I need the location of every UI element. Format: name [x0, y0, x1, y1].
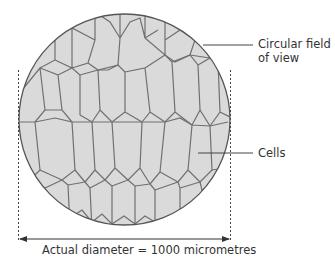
- field-of-view-label-line1: Circular field: [258, 37, 331, 51]
- field-of-view-label: Circular field of view: [258, 37, 331, 65]
- field-of-view-circle: [19, 8, 232, 232]
- field-of-view-label-line2: of view: [258, 51, 331, 65]
- cells-label: Cells: [258, 146, 286, 160]
- diameter-label: Actual diameter = 1000 micrometres: [42, 243, 256, 257]
